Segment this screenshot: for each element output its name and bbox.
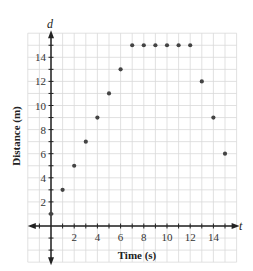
data-point (61, 188, 65, 192)
x-tick-label: 2 (71, 231, 77, 243)
data-point (153, 43, 157, 47)
x-tick-label: 12 (185, 231, 196, 243)
y-tick-label: 14 (35, 51, 47, 63)
y-tick-label: 8 (41, 124, 47, 136)
data-point (188, 43, 192, 47)
data-point (95, 115, 99, 119)
data-point (200, 79, 204, 83)
data-point (84, 140, 88, 144)
x-tick-label: 14 (208, 231, 220, 243)
y-axis-arrow-up-icon (48, 30, 54, 38)
data-point (142, 43, 146, 47)
data-point (107, 91, 111, 95)
axes (28, 30, 240, 265)
x-tick-label: 8 (141, 231, 147, 243)
data-point (119, 67, 123, 71)
x-axis-label: Time (s) (118, 249, 157, 262)
data-point (130, 43, 134, 47)
data-point (165, 43, 169, 47)
x-tick-label: 6 (118, 231, 124, 243)
data-point (72, 164, 76, 168)
y-tick-label: 2 (41, 196, 47, 208)
data-point (211, 115, 215, 119)
y-axis-label: Distance (m) (10, 106, 23, 166)
scatter-chart: 24681012142468101214 Time (s) Distance (… (0, 0, 253, 271)
y-axis-variable: d (47, 17, 54, 31)
x-axis-arrow-left-icon (28, 223, 36, 229)
x-tick-label: 4 (95, 231, 101, 243)
x-tick-label: 10 (162, 231, 174, 243)
y-tick-label: 12 (35, 75, 46, 87)
y-axis-arrow-down-icon (48, 257, 54, 265)
data-point (49, 212, 53, 216)
y-tick-label: 6 (41, 148, 47, 160)
y-tick-label: 10 (35, 100, 47, 112)
x-axis-variable: t (239, 219, 243, 233)
data-point (177, 43, 181, 47)
data-point (223, 152, 227, 156)
y-tick-label: 4 (41, 172, 47, 184)
